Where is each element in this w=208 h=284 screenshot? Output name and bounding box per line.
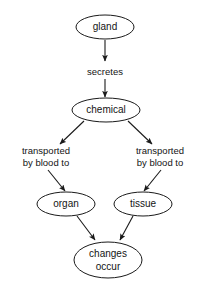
changes-occur-label-line1: changes [89,248,127,259]
edge-chemical-to-left-label [60,121,84,144]
gland-label: gland [93,21,117,32]
node-gland[interactable]: gland [76,15,134,39]
node-tissue[interactable]: tissue [114,192,172,216]
edge-chemical-to-right-label [128,121,152,144]
transported-right-label-line1: transported [136,145,184,156]
changes-occur-label-line2: occur [96,261,121,272]
transported-left-label-line1: transported [22,145,70,156]
secretes-label: secretes [87,66,123,77]
transported-right-label-line2: by blood to [137,157,183,168]
chemical-label: chemical [86,104,125,115]
node-changes-occur[interactable]: changes occur [74,242,142,278]
node-organ[interactable]: organ [37,192,95,216]
edge-left-label-to-organ [48,170,65,191]
organ-label: organ [53,198,79,209]
tissue-label: tissue [130,198,157,209]
node-chemical[interactable]: chemical [72,98,140,122]
flowchart-diagram: gland chemical organ tissue changes occu… [0,0,208,284]
edge-right-label-to-tissue [144,170,161,191]
edge-tissue-to-changes [120,216,133,240]
transported-left-label-line2: by blood to [23,157,69,168]
edge-organ-to-changes [77,216,95,240]
flowchart-canvas: gland chemical organ tissue changes occu… [0,0,208,284]
